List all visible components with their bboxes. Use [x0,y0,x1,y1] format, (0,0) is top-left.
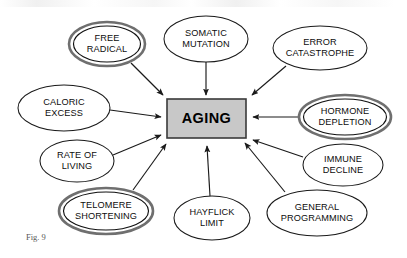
arrow-free-radical-to-aging [131,63,163,95]
arrow-hayflick-limit-to-aging [207,146,210,196]
general-programming-label-line2: PROGRAMMING [281,213,354,223]
arrow-rate-of-living-to-aging [113,135,161,155]
node-telomere-shortening[interactable]: TELOMERE SHORTENING [59,188,153,234]
node-caloric-excess[interactable]: CALORIC EXCESS [18,85,110,131]
aging-theories-figure: FREE RADICAL SOMATIC MUTATION ERROR CATA… [0,0,407,258]
aging-label: AGING [182,110,232,126]
arrow-caloric-excess-to-aging [110,110,161,117]
immune-decline-label-line2: DECLINE [323,165,364,175]
general-programming-label-line1: GENERAL [295,202,340,212]
node-hormone-depletion[interactable]: HORMONE DEPLETION [299,95,391,139]
telomere-shortening-label-line1: TELOMERE [80,200,131,210]
rate-of-living-label-line1: RATE OF [57,150,97,160]
figure-caption: Fig. 9 [26,232,46,242]
free-radical-label-line2: RADICAL [87,44,128,54]
node-somatic-mutation[interactable]: SOMATIC MUTATION [164,16,248,62]
hormone-depletion-label-line2: DEPLETION [319,117,372,127]
hormone-depletion-label-line1: HORMONE [321,106,370,116]
hayflick-limit-label-line2: LIMIT [200,218,224,228]
node-rate-of-living[interactable]: RATE OF LIVING [40,140,114,182]
arrow-telomere-shortening-to-aging [133,144,166,190]
node-general-programming[interactable]: GENERAL PROGRAMMING [267,190,367,236]
caloric-excess-label-line2: EXCESS [45,108,83,118]
node-free-radical[interactable]: FREE RADICAL [69,22,145,66]
arrow-general-programming-to-aging [245,143,285,192]
telomere-shortening-label-line2: SHORTENING [75,211,137,221]
somatic-mutation-label-line2: MUTATION [182,39,229,49]
hayflick-limit-label-line1: HAYFLICK [189,207,235,217]
diagram-canvas: FREE RADICAL SOMATIC MUTATION ERROR CATA… [0,0,407,258]
center-node-aging[interactable]: AGING [167,99,246,138]
error-catastrophe-label-line2: CATASTROPHE [286,48,355,58]
error-catastrophe-label-line1: ERROR [303,37,337,47]
immune-decline-label-line1: IMMUNE [324,154,362,164]
node-error-catastrophe[interactable]: ERROR CATASTROPHE [273,26,367,70]
rate-of-living-label-line2: LIVING [62,161,93,171]
somatic-mutation-label-line1: SOMATIC [185,28,227,38]
caloric-excess-label-line1: CALORIC [43,97,85,107]
free-radical-label-line1: FREE [95,33,120,43]
arrow-immune-decline-to-aging [253,140,303,157]
arrow-error-catastrophe-to-aging [252,66,286,95]
node-hayflick-limit[interactable]: HAYFLICK LIMIT [174,196,250,240]
node-immune-decline[interactable]: IMMUNE DECLINE [303,144,383,186]
